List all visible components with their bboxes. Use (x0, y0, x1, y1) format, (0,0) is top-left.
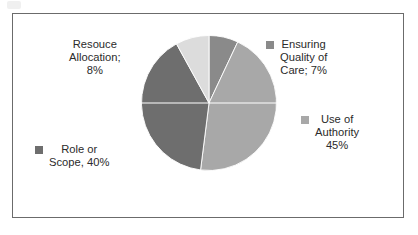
pie-label-role-or-scope: Role or Scope, 40% (35, 143, 109, 169)
legend-swatch-ensuring-quality-of-care (266, 41, 274, 49)
legend-swatch-role-or-scope (35, 146, 43, 154)
pie-chart-plot-area: Resouce Allocation; 8% Ensuring Quality … (13, 14, 403, 217)
scan-artifact (7, 1, 21, 9)
pie-label-role-or-scope-text: Role or Scope, 40% (49, 143, 109, 169)
pie-label-ensuring-quality-of-care-text: Ensuring Quality of Care; 7% (280, 38, 327, 78)
pie-label-resource-allocation: Resouce Allocation; 8% (55, 38, 121, 78)
pie-label-resource-allocation-text: Resouce Allocation; 8% (69, 38, 121, 78)
pie-label-ensuring-quality-of-care: Ensuring Quality of Care; 7% (266, 38, 327, 78)
pie-label-use-of-authority-text: Use of Authority 45% (315, 113, 359, 153)
legend-swatch-use-of-authority (301, 116, 309, 124)
pie-label-use-of-authority: Use of Authority 45% (301, 113, 359, 153)
chart-frame: Resouce Allocation; 8% Ensuring Quality … (12, 13, 404, 218)
pie-chart-graphic (141, 35, 277, 173)
legend-swatch-resource-allocation (55, 41, 63, 49)
